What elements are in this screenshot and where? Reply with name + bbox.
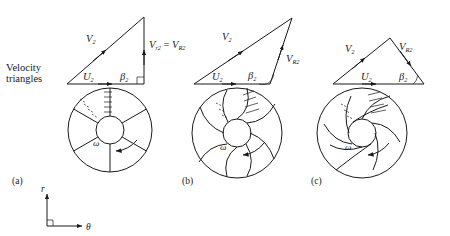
vR2-label-c: VR2 xyxy=(399,41,412,53)
omega-arrow-a xyxy=(116,140,137,151)
v2-arrowhead-b xyxy=(228,51,243,61)
figure-canvas: Velocity triangles V2 xyxy=(0,0,450,236)
impeller-hub-circle-c xyxy=(348,119,376,147)
panel-c: V2 U2 β2 VR2 xyxy=(311,38,424,187)
panel-b-velocity-triangle xyxy=(194,18,292,85)
vR2-arrowhead-b xyxy=(278,45,283,60)
caption-line-2: triangles xyxy=(6,73,42,84)
v2-arrowhead-a xyxy=(93,50,106,61)
axes-right-angle-marker xyxy=(47,220,53,226)
panel-a: V2 U2 β2 Vr2 = VR2 xyxy=(12,17,185,187)
panel-b: V2 U2 β2 VR2 xyxy=(182,18,299,187)
panel-c-impeller: ω xyxy=(317,88,407,178)
beta2-arc-c xyxy=(413,76,417,85)
right-angle-marker-a xyxy=(137,77,144,84)
blade-a-2 xyxy=(122,109,146,123)
v2-label-a: V2 xyxy=(86,33,96,45)
omega-label-a: ω xyxy=(93,138,99,148)
beta2-label-b: β2 xyxy=(247,70,256,82)
velocity-triangle-figure: Velocity triangles V2 xyxy=(0,0,450,236)
v2-label-b: V2 xyxy=(222,31,232,43)
blade-a-6 xyxy=(74,109,98,123)
u2-label-b: U2 xyxy=(212,71,223,83)
panel-b-impeller: ω xyxy=(192,88,282,178)
omega-label-c: ω xyxy=(345,142,351,152)
panel-label-a: (a) xyxy=(12,176,23,187)
impeller-outer-circle-b xyxy=(192,88,282,178)
impeller-blades-c xyxy=(324,96,400,170)
theta-axis-label: θ xyxy=(86,222,91,232)
omega-label-b: ω xyxy=(220,142,226,152)
panel-label-b: (b) xyxy=(182,176,193,187)
v2-arrowhead-c xyxy=(352,58,365,69)
vr2-equals-vR2-label-a: Vr2 = VR2 xyxy=(149,39,185,51)
impeller-hub-circle-a xyxy=(96,116,124,144)
caption-line-1: Velocity xyxy=(6,62,42,73)
coordinate-axes: r θ xyxy=(41,184,91,232)
impeller-blades-b xyxy=(199,88,275,177)
velocity-triangles-caption: Velocity triangles xyxy=(6,62,42,84)
u2-label-c: U2 xyxy=(361,71,372,83)
v2-label-c: V2 xyxy=(345,43,355,55)
beta2-label-c: β2 xyxy=(398,71,407,83)
panel-b-triangle-labels: V2 U2 β2 VR2 xyxy=(212,31,299,83)
vR2-label-b: VR2 xyxy=(286,53,299,65)
panel-a-velocity-triangle xyxy=(67,17,144,84)
impeller-hub-circle-b xyxy=(223,119,251,147)
panel-a-triangle-labels: V2 U2 β2 Vr2 = VR2 xyxy=(83,33,185,83)
u2-label-a: U2 xyxy=(83,71,94,83)
beta2-label-a: β2 xyxy=(119,71,128,83)
r-axis-label: r xyxy=(41,184,45,194)
panel-label-c: (c) xyxy=(311,176,322,187)
panel-a-impeller: ω xyxy=(68,88,152,172)
